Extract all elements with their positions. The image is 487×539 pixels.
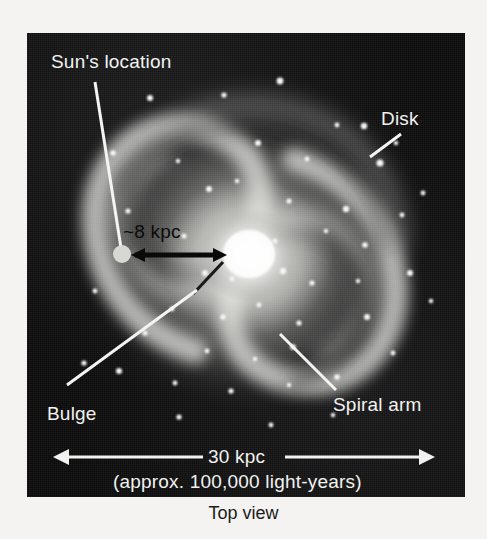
galaxy-top-view-figure: Sun's location Disk ~8 kpc Bulge Spiral … [0, 0, 487, 539]
galaxy-illustration [27, 33, 465, 497]
bulge-label: Bulge [47, 403, 97, 425]
galactic-bulge [161, 177, 333, 337]
sky-panel: Sun's location Disk ~8 kpc Bulge Spiral … [27, 33, 465, 497]
galaxy-diameter-sublabel: (approx. 100,000 light-years) [113, 471, 362, 493]
galaxy-svg [27, 33, 465, 497]
suns-location-label: Sun's location [51, 51, 172, 73]
disk-label: Disk [381, 108, 419, 130]
sun-distance-label: ~8 kpc [123, 221, 181, 243]
spiral-arm-label: Spiral arm [333, 394, 422, 416]
galaxy-diameter-label: 30 kpc [208, 446, 265, 468]
figure-caption: Top view [0, 503, 487, 524]
